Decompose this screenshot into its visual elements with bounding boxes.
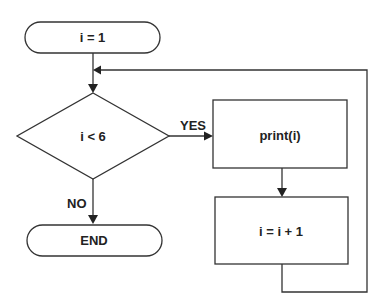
increment-label: i = i + 1 bbox=[259, 224, 303, 239]
arrowhead-icon bbox=[277, 188, 287, 197]
end-label: END bbox=[80, 233, 107, 248]
arrowhead-icon bbox=[88, 215, 98, 224]
decision-diamond: i < 6 bbox=[17, 93, 169, 179]
decision-label: i < 6 bbox=[80, 129, 106, 144]
increment-process-box: i = i + 1 bbox=[215, 197, 348, 264]
edge-yes: YES bbox=[169, 118, 213, 141]
edge-print-to-increment bbox=[277, 168, 287, 197]
yes-label: YES bbox=[180, 118, 206, 133]
edge-no: NO bbox=[67, 179, 98, 224]
flowchart: i = 1 i < 6 YES print(i) i = i + 1 bbox=[0, 0, 382, 308]
print-process-box: print(i) bbox=[213, 100, 347, 168]
edge-start-to-decision bbox=[88, 53, 98, 93]
print-label: print(i) bbox=[259, 128, 300, 143]
end-terminator: END bbox=[27, 225, 162, 256]
no-label: NO bbox=[67, 196, 87, 211]
arrowhead-icon bbox=[88, 84, 98, 93]
start-label: i = 1 bbox=[80, 30, 106, 45]
arrowhead-icon bbox=[93, 66, 101, 75]
start-terminator: i = 1 bbox=[25, 22, 160, 53]
